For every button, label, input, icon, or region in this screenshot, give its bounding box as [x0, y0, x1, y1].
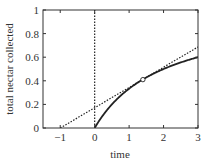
- axes: −1012300.20.40.60.81: [25, 4, 201, 143]
- axes-frame: [43, 10, 198, 128]
- y-axis-label: total nectar collected: [3, 23, 15, 115]
- plot-area: [60, 10, 198, 128]
- tangent-point-marker: [141, 77, 145, 81]
- x-tick-label: 2: [161, 131, 167, 143]
- y-tick-label: 0.2: [25, 98, 39, 110]
- tangent-line-line: [60, 47, 198, 128]
- y-tick-label: 0.6: [25, 51, 39, 63]
- y-tick-label: 0: [34, 122, 40, 134]
- x-tick-label: −1: [54, 131, 66, 143]
- y-tick-label: 0.4: [25, 75, 39, 87]
- x-tick-label: 3: [195, 131, 201, 143]
- x-axis-label: time: [110, 148, 130, 160]
- x-tick-label: 0: [92, 131, 98, 143]
- chart: −1012300.20.40.60.81 time total nectar c…: [0, 0, 210, 165]
- y-tick-label: 0.8: [25, 28, 39, 40]
- y-tick-label: 1: [34, 4, 40, 16]
- x-tick-label: 1: [126, 131, 132, 143]
- gain-curve-line: [95, 57, 198, 128]
